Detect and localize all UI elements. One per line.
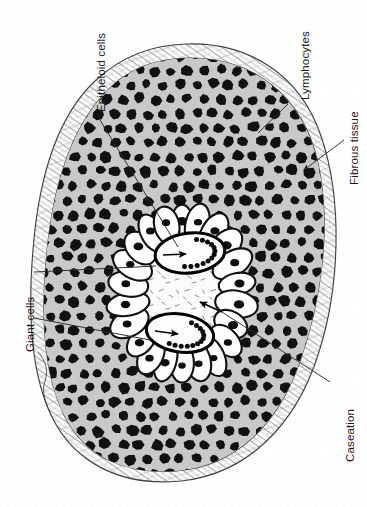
lymphocyte-nucleus [30,109,41,120]
lymphocyte-nucleus [297,412,309,422]
lymphocyte-nucleus [306,427,316,436]
lymphocyte-nucleus [273,453,285,463]
lymphocyte-nucleus [31,168,40,177]
lymphocyte-nucleus [63,79,74,90]
lymphocyte-nucleus [282,65,292,75]
epithelioid-cell-nucleus [121,280,130,287]
lymphocyte-nucleus [258,455,268,464]
lymphocyte-nucleus [298,471,307,480]
lymphocyte-nucleus [321,427,332,437]
lymphocyte-nucleus [287,454,300,466]
lymphocyte-nucleus [320,368,331,379]
lymphocyte-nucleus [52,66,62,77]
giant-cell-nucleus [195,341,200,346]
lymphocyte-nucleus [47,49,58,61]
lymphocyte-nucleus [36,123,47,135]
lymphocyte-nucleus [112,53,123,62]
label-epitheloid-cells: Epitheloid cells [96,33,108,112]
giant-cell-nucleus [195,263,200,268]
giant-cell-nucleus [185,344,190,349]
lymphocyte-nucleus [313,65,323,74]
lymphocyte-nucleus [53,470,63,480]
lymphocyte-nucleus [282,438,292,449]
giant-cell-nucleus [206,259,211,264]
giant-cell-nucleus [182,264,187,269]
epithelioid-cell-nucleus [123,321,132,328]
lymphocyte-nucleus [289,425,299,436]
epithelioid-cell-nucleus [178,363,186,369]
epithelioid-cell-nucleus [134,243,144,251]
epithelioid-cell-nucleus [224,339,232,346]
lymphocyte-nucleus [76,51,86,60]
lymphocyte-nucleus [29,426,39,436]
lymphocyte-nucleus [311,467,323,478]
lymphocyte-nucleus [311,96,321,105]
lymphocyte-nucleus [27,453,37,464]
label-giant-cells: Giant cells [25,297,37,352]
lymphocyte-nucleus [78,80,89,90]
lymphocyte-nucleus [35,467,48,479]
lymphocyte-nucleus [54,95,64,105]
lymphocyte-nucleus [31,138,39,148]
epithelioid-cell-nucleus [195,361,203,367]
lymphocyte-nucleus [54,438,65,449]
epithelioid-cell-nucleus [146,228,155,235]
lymphocyte-nucleus [314,439,324,448]
lymphocyte-nucleus [321,398,332,407]
giant-cell-nucleus [190,343,195,348]
giant-cell-nucleus [200,238,205,243]
giant-cell-nucleus [201,261,206,266]
lymphocyte-nucleus [28,80,38,91]
lymphocyte-nucleus [312,411,322,420]
lymphocyte-nucleus [318,453,328,464]
lymphocyte-nucleus [68,65,80,77]
lymphocyte-nucleus [37,94,47,104]
epithelioid-cell-nucleus [234,300,244,308]
giant-cell-nucleus [167,341,172,346]
lymphocyte-nucleus [29,50,38,59]
label-caseation: Caseation [345,409,357,462]
epithelioid-cell-nucleus [135,339,144,346]
lymphocyte-nucleus [37,410,48,421]
granuloma-illustration [0,0,367,507]
lymphocyte-nucleus [232,470,240,478]
lymphocyte-nucleus [38,65,47,74]
epithelioid-cell-nucleus [230,259,239,266]
lymphocyte-nucleus [303,453,315,464]
giant-cell-nucleus [188,264,193,269]
label-lymphocytes: Lymphocytes [300,31,312,100]
epithelioid-cell-nucleus [145,355,153,362]
lymphocyte-nucleus [36,151,48,160]
lymphocyte-nucleus [44,427,55,435]
lymphocyte-nucleus [271,50,281,59]
lymphocyte-nucleus [46,111,55,120]
epithelioid-cell-nucleus [194,219,202,226]
lymphocyte-nucleus [69,467,82,479]
figure-canvas: Epitheloid cells Lymphocytes Fibrous tis… [0,0,367,507]
lymphocyte-nucleus [39,440,49,449]
lymphocyte-nucleus [296,439,305,449]
lymphocyte-nucleus [64,50,73,59]
lymphocyte-nucleus [322,52,331,60]
lymphocyte-nucleus [44,453,54,463]
giant-cell-nucleus [189,320,194,325]
giant-cell-nucleus [194,237,199,242]
lymphocyte-nucleus [305,397,315,406]
label-fibrous-tissue: Fibrous tissue [349,111,361,185]
epithelioid-cell-nucleus [235,279,245,287]
lymphocyte-nucleus [266,470,276,479]
lymphocyte-nucleus [46,80,55,91]
lymphocyte-nucleus [319,110,329,119]
giant-cell-nucleus [179,344,184,349]
lymphocyte-nucleus [88,469,98,477]
lymphocyte-nucleus [279,469,287,477]
giant-cell-nucleus [173,343,178,348]
lymphocyte-nucleus [287,52,297,61]
lymphocyte-nucleus [30,397,40,407]
lymphocyte-nucleus [245,182,258,192]
lymphocyte-nucleus [319,80,330,91]
lymphocyte-nucleus [312,381,322,391]
lymphocyte-nucleus [249,469,258,479]
lymphocyte-nucleus [59,452,70,464]
epithelioid-cell-nucleus [121,301,130,309]
